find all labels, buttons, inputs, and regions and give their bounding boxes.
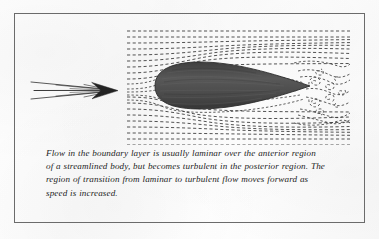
caption-line-1: Flow in the boundary layer is usually la… (46, 147, 344, 160)
figure-caption: Flow in the boundary layer is usually la… (46, 147, 344, 200)
streamlined-body (155, 62, 310, 109)
caption-line-2: of a streamlined body, but becomes turbu… (46, 160, 344, 173)
caption-line-4: speed is increased. (46, 187, 344, 200)
caption-line-3: region of transition from laminar to tur… (46, 173, 344, 186)
turbulent-wake (294, 61, 350, 125)
figure-page: Flow in the boundary layer is usually la… (0, 0, 379, 239)
flow-direction-arrow (31, 82, 118, 99)
